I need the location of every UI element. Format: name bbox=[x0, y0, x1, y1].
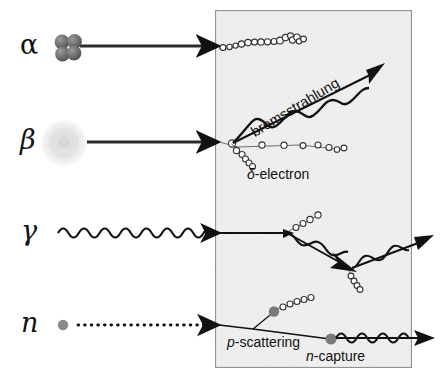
label-gamma: γ bbox=[21, 217, 37, 244]
delta-electron-symbol: δ bbox=[247, 166, 255, 182]
label-alpha: α bbox=[20, 31, 38, 58]
compton-electron-track-1 bbox=[289, 212, 321, 231]
n-capture-symbol: n bbox=[306, 348, 314, 364]
p-scattering-symbol: p bbox=[227, 334, 235, 350]
delta-electron-suffix: -electron bbox=[255, 166, 309, 182]
n-capture-emission bbox=[325, 330, 435, 346]
n-capture-label: n-capture bbox=[306, 348, 365, 364]
alpha-track bbox=[219, 33, 306, 51]
p-scattering-label: p-scattering bbox=[227, 334, 300, 350]
n-capture-suffix: -capture bbox=[314, 348, 365, 364]
material-tracks-layer bbox=[0, 0, 440, 382]
compton-electron-track-2 bbox=[348, 271, 363, 292]
label-neutron: n bbox=[21, 309, 38, 336]
label-beta: β bbox=[20, 126, 36, 153]
p-scattering-suffix: -scattering bbox=[235, 334, 300, 350]
gamma-compton-chain bbox=[219, 229, 434, 272]
delta-electron-label: δ-electron bbox=[247, 166, 309, 182]
p-scattering-recoil-track bbox=[269, 295, 314, 317]
figure-canvas: α β γ n bremsstrahlung δ-electron p-scat… bbox=[0, 0, 440, 382]
